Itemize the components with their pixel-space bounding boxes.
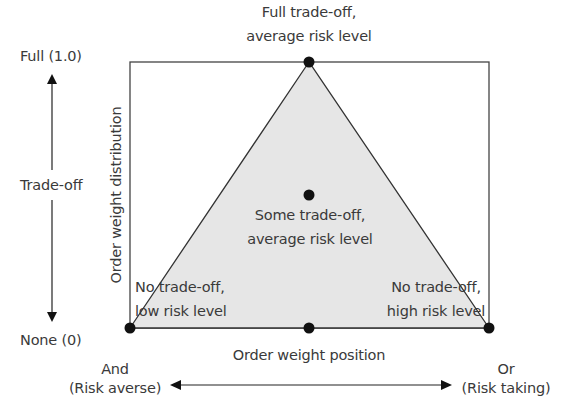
center-point (304, 190, 315, 201)
bottom-mid-point (304, 323, 315, 334)
x-axis-title: Order weight position (233, 345, 386, 365)
x-left-label: And (Risk averse) (69, 360, 161, 398)
left-label-line1: No trade-off, (135, 277, 227, 297)
arrow-down-icon (47, 312, 57, 322)
y-bottom-label: None (0) (20, 330, 81, 350)
right-point (484, 323, 495, 334)
center-label-line2: average risk level (247, 229, 372, 249)
apex-label: Full trade-off, average risk level (246, 2, 371, 46)
right-point-label: No trade-off, high risk level (387, 277, 485, 321)
right-label-line2: high risk level (387, 301, 485, 321)
y-axis-title: Order weight distribution (106, 107, 126, 284)
x-left-line2: (Risk averse) (69, 379, 161, 398)
y-middle-label: Trade-off (20, 175, 82, 195)
x-left-line1: And (69, 360, 161, 379)
center-label: Some trade-off, average risk level (247, 205, 372, 249)
x-right-line1: Or (462, 360, 551, 379)
apex-point (304, 57, 315, 68)
left-label-line2: low risk level (135, 301, 227, 321)
x-right-line2: (Risk taking) (462, 379, 551, 398)
arrow-left-icon (170, 380, 181, 390)
center-label-line1: Some trade-off, (247, 205, 372, 225)
arrow-up-icon (47, 74, 57, 84)
arrow-right-icon (441, 380, 452, 390)
y-top-label: Full (1.0) (20, 46, 82, 66)
left-point-label: No trade-off, low risk level (135, 277, 227, 321)
x-right-label: Or (Risk taking) (462, 360, 551, 398)
right-label-line1: No trade-off, (387, 277, 485, 297)
left-point (125, 323, 136, 334)
apex-label-line1: Full trade-off, (246, 2, 371, 22)
apex-label-line2: average risk level (246, 26, 371, 46)
